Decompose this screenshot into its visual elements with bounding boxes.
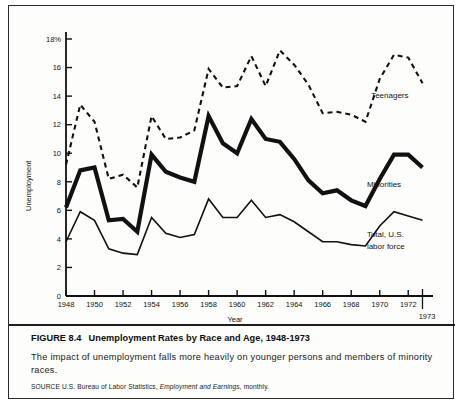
source-publication: Employment and Earnings, [160, 383, 242, 390]
y-tick-label: 12 [53, 120, 61, 129]
series-label-teenagers: Teenagers [371, 91, 408, 100]
x-axis-end-year-label: 1973 [419, 312, 436, 321]
figure-container: 024681012141618% 19481950195219541956195… [8, 5, 454, 399]
figure-number: FIGURE 8.4 [31, 333, 82, 343]
source-prefix: SOURCE U.S. Bureau of Labor Statistics, [31, 383, 158, 390]
x-tick-label: 1954 [143, 300, 160, 309]
chart-plot-region: 024681012141618% 19481950195219541956195… [9, 6, 455, 324]
figure-title-line: FIGURE 8.4Unemployment Rates by Race and… [31, 333, 433, 343]
y-tick-label: 10 [53, 149, 61, 158]
x-tick-label: 1956 [172, 300, 189, 309]
figure-source-line: SOURCE U.S. Bureau of Labor Statistics, … [31, 383, 433, 390]
y-axis-title: Unemployment [24, 160, 33, 211]
y-tick-label: 8 [57, 178, 61, 187]
x-tick-label: 1970 [371, 300, 388, 309]
series-label-total-line1: Total, U.S. [367, 230, 404, 239]
x-tick-label: 1952 [115, 300, 132, 309]
x-tick-label: 1958 [200, 300, 217, 309]
series-label-minorities: Minorities [367, 180, 401, 189]
y-tick-label: 14 [53, 92, 61, 101]
series-line-teenagers [66, 50, 423, 187]
series-label-total-line2: labor force [367, 242, 405, 251]
unemployment-line-chart: 024681012141618% 19481950195219541956195… [9, 6, 455, 324]
x-axis-title: Year [227, 315, 243, 324]
source-suffix: monthly. [244, 383, 269, 390]
y-tick-label: 4 [57, 235, 61, 244]
y-axis-ticks: 024681012141618% [46, 35, 72, 301]
y-tick-label: 16 [53, 63, 61, 72]
x-tick-label: 1972 [400, 300, 417, 309]
data-series-group [66, 50, 423, 254]
y-tick-label: 2 [57, 263, 61, 272]
x-tick-label: 1960 [229, 300, 246, 309]
series-line-minorities [66, 116, 423, 232]
y-tick-label: 18% [46, 35, 61, 44]
figure-title: Unemployment Rates by Race and Age, 1948… [89, 333, 310, 343]
x-tick-label: 1948 [58, 300, 75, 309]
x-axis-ticks: 1948195019521954195619581960196219641966… [58, 290, 417, 309]
x-tick-label: 1962 [257, 300, 274, 309]
x-tick-label: 1966 [314, 300, 331, 309]
y-tick-label: 6 [57, 206, 61, 215]
figure-caption-text: The impact of unemployment falls more he… [31, 351, 433, 376]
x-tick-label: 1968 [343, 300, 360, 309]
caption-divider-rule [9, 324, 455, 326]
x-tick-label: 1964 [286, 300, 303, 309]
figure-caption-block: FIGURE 8.4Unemployment Rates by Race and… [9, 324, 455, 398]
x-tick-label: 1950 [86, 300, 103, 309]
